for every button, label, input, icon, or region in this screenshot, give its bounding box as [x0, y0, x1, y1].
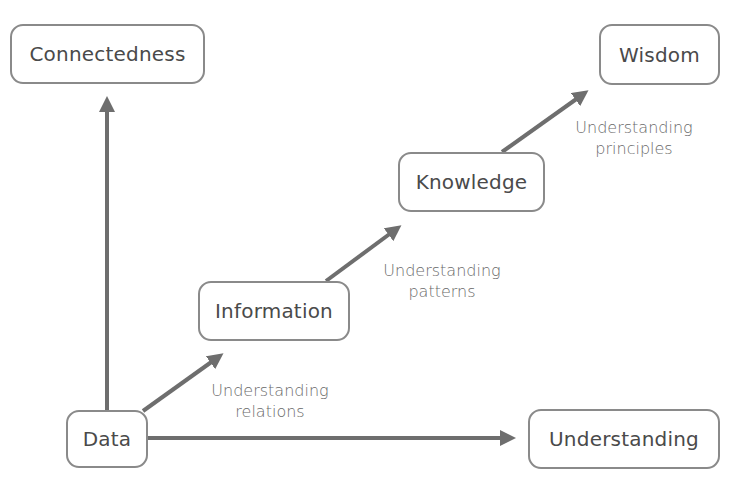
edge-label-patterns: Understanding patterns [362, 260, 522, 302]
node-data: Data [66, 410, 148, 468]
node-knowledge: Knowledge [398, 152, 545, 212]
edge-label-principles: Understanding principles [554, 117, 714, 159]
edge-label-principles-line2: principles [554, 138, 714, 159]
node-connectedness-label: Connectedness [29, 42, 185, 66]
edge-label-principles-line1: Understanding [554, 117, 714, 138]
node-connectedness: Connectedness [10, 24, 205, 84]
node-understanding: Understanding [528, 409, 720, 469]
edge-label-patterns-line2: patterns [362, 281, 522, 302]
node-understanding-label: Understanding [549, 427, 699, 451]
node-knowledge-label: Knowledge [416, 170, 528, 194]
node-data-label: Data [83, 427, 132, 451]
edge-label-relations-line2: relations [190, 401, 350, 422]
node-wisdom: Wisdom [599, 24, 720, 85]
node-information-label: Information [215, 299, 333, 323]
node-wisdom-label: Wisdom [619, 43, 700, 67]
edge-label-relations-line1: Understanding [190, 380, 350, 401]
node-information: Information [198, 281, 350, 341]
edge-label-relations: Understanding relations [190, 380, 350, 422]
edge-label-patterns-line1: Understanding [362, 260, 522, 281]
